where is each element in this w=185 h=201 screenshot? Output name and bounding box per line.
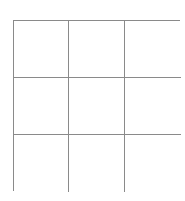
board-cell[interactable] bbox=[14, 135, 69, 192]
board-cell[interactable] bbox=[69, 21, 125, 78]
board-cell[interactable] bbox=[125, 21, 181, 78]
game-board bbox=[13, 20, 180, 191]
board-cell[interactable] bbox=[125, 135, 181, 192]
board-cell[interactable] bbox=[14, 78, 69, 135]
board-cell[interactable] bbox=[14, 21, 69, 78]
board-cell[interactable] bbox=[69, 78, 125, 135]
board-cell[interactable] bbox=[69, 135, 125, 192]
board-cell[interactable] bbox=[125, 78, 181, 135]
